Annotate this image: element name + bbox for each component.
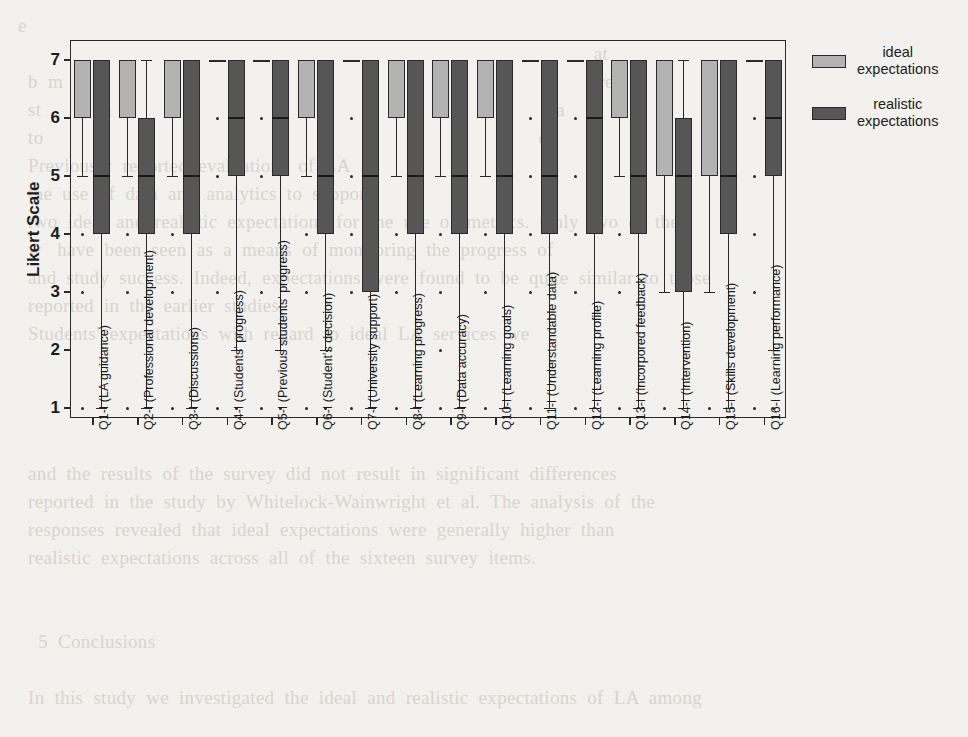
y-tick-label: 7: [40, 50, 60, 70]
x-tick-mark: [674, 418, 675, 425]
box-ideal: [522, 60, 539, 62]
whisker-upper: [146, 60, 147, 118]
legend-item: realistic expectations: [812, 96, 938, 130]
outlier-point: [753, 117, 756, 120]
x-tick-mark: [316, 418, 317, 425]
x-tick-mark: [92, 418, 93, 425]
legend-label: ideal expectations: [857, 44, 938, 78]
box-realistic: [451, 60, 468, 234]
box-realistic: [496, 60, 513, 234]
box-ideal: [253, 60, 270, 62]
median-line: [765, 117, 782, 119]
whisker-cap-lower: [659, 292, 670, 293]
outlier-point: [708, 407, 711, 410]
x-tick-label: Q7-I (University support): [366, 294, 380, 430]
median-line: [496, 175, 513, 177]
box-realistic: [586, 60, 603, 234]
outlier-point: [529, 233, 532, 236]
outlier-point: [350, 233, 353, 236]
outlier-point: [350, 291, 353, 294]
outlier-point: [574, 175, 577, 178]
whisker-lower: [306, 118, 307, 176]
outlier-point: [171, 291, 174, 294]
outlier-point: [350, 117, 353, 120]
outlier-point: [305, 233, 308, 236]
whisker-cap-lower: [704, 292, 715, 293]
outlier-point: [350, 175, 353, 178]
box-realistic: [407, 60, 424, 234]
outlier-point: [529, 291, 532, 294]
box-ideal: [164, 60, 181, 118]
box-ideal: [432, 60, 449, 118]
whisker-cap-lower: [480, 176, 491, 177]
outlier-point: [753, 175, 756, 178]
whisker-cap-lower: [435, 176, 446, 177]
x-tick-mark: [271, 418, 272, 425]
whisker-upper: [683, 60, 684, 118]
whisker-lower: [172, 118, 173, 176]
x-tick-label: Q8-I (Learning progress): [411, 293, 425, 430]
outlier-point: [126, 407, 129, 410]
outlier-point: [484, 291, 487, 294]
outlier-point: [529, 407, 532, 410]
median-line: [272, 117, 289, 119]
box-ideal: [119, 60, 136, 118]
box-ideal: [477, 60, 494, 118]
box-ideal: [298, 60, 315, 118]
x-tick-mark: [764, 418, 765, 425]
outlier-point: [126, 291, 129, 294]
box-realistic: [675, 118, 692, 292]
x-tick-label: Q12-I (Learning profile): [590, 301, 604, 430]
median-line: [362, 175, 379, 177]
whisker-lower: [619, 118, 620, 176]
box-ideal: [701, 60, 718, 176]
whisker-lower: [127, 118, 128, 176]
x-tick-label: Q10-I (Learning goals): [500, 305, 514, 430]
y-tick-label: 6: [40, 108, 60, 128]
whisker-lower: [396, 118, 397, 176]
outlier-point: [753, 291, 756, 294]
outlier-point: [484, 233, 487, 236]
median-line: [317, 175, 334, 177]
median-line: [228, 117, 245, 119]
whisker-cap-upper: [141, 60, 152, 61]
median-line: [93, 175, 110, 177]
y-tick-label: 1: [40, 398, 60, 418]
x-tick-mark: [227, 418, 228, 425]
outlier-point: [126, 233, 129, 236]
x-tick-mark: [719, 418, 720, 425]
outlier-point: [574, 233, 577, 236]
x-tick-mark: [495, 418, 496, 425]
x-tick-label: Q11-I (Understandable data): [545, 272, 559, 430]
outlier-point: [574, 291, 577, 294]
x-tick-label: Q3-I (Discussions): [187, 327, 201, 430]
whisker-cap-lower: [122, 176, 133, 177]
whisker-lower: [664, 176, 665, 292]
x-tick-label: Q1-I (LA guidance): [97, 325, 111, 430]
x-tick-label: Q5-I (Previous students' progress): [276, 240, 290, 430]
x-tick-mark: [540, 418, 541, 425]
outlier-point: [395, 291, 398, 294]
whisker-cap-lower: [301, 176, 312, 177]
outlier-point: [753, 407, 756, 410]
box-ideal: [209, 60, 226, 62]
x-tick-label: Q2-I (Professional development): [142, 250, 156, 430]
box-ideal: [567, 60, 584, 62]
y-tick-label: 5: [40, 166, 60, 186]
whisker-cap-lower: [391, 176, 402, 177]
median-line: [183, 175, 200, 177]
outlier-point: [216, 291, 219, 294]
median-line: [586, 117, 603, 119]
outlier-point: [574, 117, 577, 120]
median-line: [407, 175, 424, 177]
whisker-cap-lower: [77, 176, 88, 177]
whisker-cap-lower: [167, 176, 178, 177]
whisker-lower: [440, 118, 441, 176]
x-tick-label: Q4-I (Students' progress): [232, 290, 246, 430]
legend-swatch-realistic: [812, 107, 846, 120]
x-tick-mark: [585, 418, 586, 425]
outlier-point: [305, 407, 308, 410]
box-realistic: [541, 60, 558, 234]
whisker-lower: [82, 118, 83, 176]
box-ideal: [611, 60, 628, 118]
